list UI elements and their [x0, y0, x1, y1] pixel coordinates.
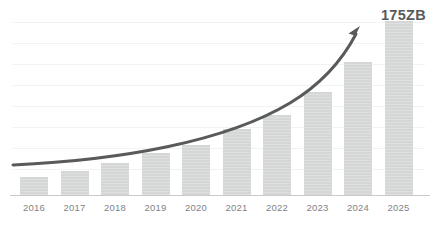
- x-axis-tick-label-2022: 2022: [255, 202, 299, 213]
- x-axis-tick-label-2021: 2021: [215, 202, 259, 213]
- value-callout-label: 175ZB: [381, 7, 426, 23]
- labels-group: 175ZB 2016201720182019202020212022202320…: [0, 0, 440, 229]
- x-axis-tick-label-2023: 2023: [296, 202, 340, 213]
- x-axis-tick-label-2024: 2024: [336, 202, 380, 213]
- chart-container: 175ZB 2016201720182019202020212022202320…: [0, 0, 440, 229]
- x-axis-tick-label-2018: 2018: [93, 202, 137, 213]
- x-axis-tick-label-2025: 2025: [377, 202, 421, 213]
- x-axis-tick-label-2020: 2020: [174, 202, 218, 213]
- x-axis-tick-label-2019: 2019: [134, 202, 178, 213]
- x-axis-tick-label-2016: 2016: [12, 202, 56, 213]
- x-axis-tick-label-2017: 2017: [53, 202, 97, 213]
